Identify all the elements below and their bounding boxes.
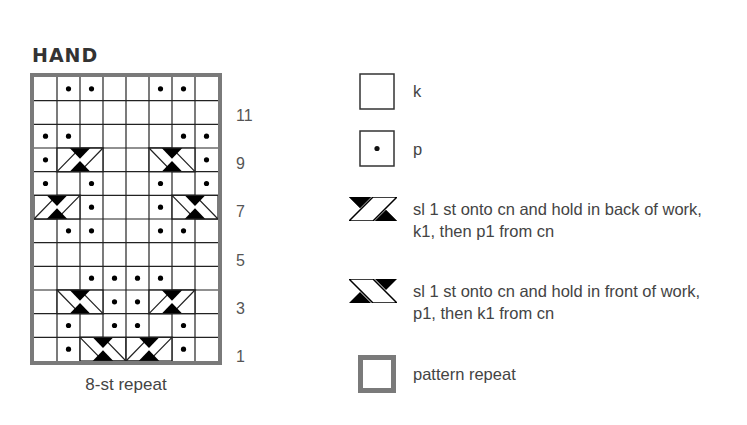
- purl-dot: [181, 86, 186, 91]
- purl-dot: [158, 228, 163, 233]
- purl-dot: [89, 181, 94, 186]
- purl-dot: [181, 323, 186, 328]
- chart-title: HAND: [32, 44, 98, 66]
- purl-dot: [204, 181, 209, 186]
- purl-dot: [66, 134, 71, 139]
- purl-dot: [158, 86, 163, 91]
- purl-dot: [135, 323, 140, 328]
- row-number-3: 3: [236, 300, 256, 318]
- legend-front-cable-line1: sl 1 st onto cn and hold in front of wor…: [413, 280, 700, 302]
- row-number-9: 9: [236, 155, 256, 173]
- purl-dot: [66, 228, 71, 233]
- purl-dot: [158, 181, 163, 186]
- purl-dot: [135, 299, 140, 304]
- purl-dot: [66, 86, 71, 91]
- purl-dot: [158, 205, 163, 210]
- repeat-label: 8-st repeat: [30, 375, 222, 395]
- legend-front-cable-line2: p1, then k1 from cn: [413, 302, 554, 324]
- purl-dot: [204, 134, 209, 139]
- legend-purl-label: p: [413, 138, 422, 160]
- purl-dot-square-icon: [359, 130, 395, 167]
- purl-dot: [89, 86, 94, 91]
- purl-dot: [112, 323, 117, 328]
- repeat-box-icon: [358, 355, 396, 393]
- chart-grid: [30, 73, 222, 365]
- purl-dot: [89, 205, 94, 210]
- row-number-7: 7: [236, 203, 256, 221]
- purl-dot: [89, 228, 94, 233]
- legend-back-cable-line2: k1, then p1 from cn: [413, 220, 554, 242]
- purl-dot: [112, 276, 117, 281]
- purl-dot: [43, 181, 48, 186]
- purl-dot: [181, 347, 186, 352]
- purl-dot: [158, 276, 163, 281]
- row-number-5: 5: [236, 252, 256, 270]
- knitting-chart: [30, 73, 222, 365]
- row-number-11: 11: [236, 107, 256, 125]
- purl-dot: [135, 276, 140, 281]
- right-cross-back-icon: [349, 197, 397, 221]
- purl-dot: [43, 134, 48, 139]
- purl-dot: [66, 347, 71, 352]
- row-number-1: 1: [236, 348, 256, 366]
- purl-dot: [43, 157, 48, 162]
- purl-dot: [112, 299, 117, 304]
- knit-square-icon: [359, 73, 395, 110]
- purl-dot: [89, 276, 94, 281]
- purl-dot: [181, 134, 186, 139]
- purl-dot: [181, 228, 186, 233]
- legend-back-cable-line1: sl 1 st onto cn and hold in back of work…: [413, 198, 702, 220]
- legend-repeat-label: pattern repeat: [413, 363, 516, 385]
- purl-dot: [204, 157, 209, 162]
- purl-dot: [66, 323, 71, 328]
- legend-knit-label: k: [413, 80, 421, 102]
- left-cross-front-icon: [349, 279, 397, 303]
